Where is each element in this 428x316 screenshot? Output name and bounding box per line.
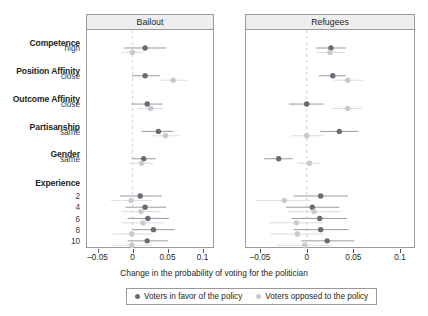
x-axis-title: Change in the probability of voting for …	[0, 268, 428, 278]
estimate-point	[142, 45, 147, 50]
estimate-point	[345, 77, 350, 82]
panel-strip-bailout: Bailout	[87, 15, 213, 30]
estimate-point	[330, 73, 335, 78]
estimate-point	[138, 193, 143, 198]
estimate-point	[302, 243, 307, 248]
estimate-point	[304, 101, 309, 106]
estimate-point	[145, 216, 150, 221]
estimate-point	[145, 238, 150, 243]
x-axis-tick-label: 0	[304, 253, 309, 262]
row-label-gutter: CompetencehighPosition AffinitycloseOutc…	[0, 14, 84, 248]
estimate-point	[130, 50, 135, 55]
estimate-point	[129, 231, 134, 236]
row-sub-label: 6	[75, 215, 80, 224]
estimate-point	[140, 220, 145, 225]
row-sub-label: same	[60, 155, 80, 164]
estimate-point	[294, 220, 299, 225]
row-sub-label: close	[61, 100, 80, 109]
estimate-point	[311, 209, 316, 214]
row-sub-label: same	[60, 128, 80, 137]
estimate-point	[345, 106, 350, 111]
estimate-point	[327, 50, 332, 55]
panel-refugees: Refugees	[245, 14, 415, 248]
row-sub-label: 8	[75, 226, 80, 235]
row-sub-label: 10	[71, 237, 80, 246]
estimate-point	[304, 133, 309, 138]
estimate-point	[129, 243, 134, 248]
row-sub-label: close	[61, 72, 80, 81]
plot-area-refugees	[246, 30, 414, 247]
coefficient-plot-figure: CompetencehighPosition AffinitycloseOutc…	[0, 0, 428, 316]
x-axis-tick-label: 0	[130, 253, 135, 262]
row-sub-label: high	[65, 44, 80, 53]
plot-svg	[246, 30, 414, 248]
estimate-point	[325, 238, 330, 243]
estimate-point	[295, 231, 300, 236]
estimate-point	[142, 205, 147, 210]
estimate-point	[151, 227, 156, 232]
panel-strip-refugees: Refugees	[246, 15, 414, 30]
estimate-point	[142, 73, 147, 78]
x-axis-tick-label: 0.1	[394, 253, 405, 262]
estimate-point	[337, 129, 342, 134]
row-sub-label: 2	[75, 192, 80, 201]
plot-svg	[87, 30, 213, 248]
x-axis-tick-label: 0.05	[345, 253, 361, 262]
x-axis-tick-label: –0.05	[250, 253, 271, 262]
estimate-point	[317, 216, 322, 221]
estimate-point	[139, 160, 144, 165]
estimate-point	[282, 198, 287, 203]
x-axis-tick-label: 0.1	[197, 253, 208, 262]
row-sub-label: 4	[75, 203, 80, 212]
legend-entry: Voters opposed to the policy	[256, 292, 368, 301]
legend-marker-icon	[256, 294, 261, 299]
estimate-point	[145, 101, 150, 106]
legend: Voters in favor of the policyVoters oppo…	[126, 288, 377, 305]
panel-title-refugees: Refugees	[311, 18, 349, 27]
estimate-point	[138, 209, 143, 214]
x-axis-bailout: –0.0500.050.1	[86, 249, 214, 265]
estimate-point	[170, 77, 175, 82]
x-axis-tick-label: 0.05	[160, 253, 176, 262]
x-axis-tick-label: –0.05	[87, 253, 108, 262]
legend-entry: Voters in favor of the policy	[135, 292, 242, 301]
plot-area-bailout	[87, 30, 213, 247]
estimate-point	[307, 160, 312, 165]
panel-bailout: Bailout	[86, 14, 214, 248]
estimate-point	[156, 129, 161, 134]
estimate-point	[163, 133, 168, 138]
estimate-point	[128, 198, 133, 203]
row-group-label: Experience	[35, 178, 80, 188]
x-axis-refugees: –0.0500.050.1	[245, 249, 415, 265]
legend-label: Voters in favor of the policy	[144, 292, 242, 301]
legend-label: Voters opposed to the policy	[265, 292, 368, 301]
estimate-point	[318, 193, 323, 198]
estimate-point	[276, 156, 281, 161]
legend-marker-icon	[135, 294, 140, 299]
estimate-point	[148, 106, 153, 111]
estimate-point	[318, 227, 323, 232]
panel-title-bailout: Bailout	[137, 18, 164, 27]
